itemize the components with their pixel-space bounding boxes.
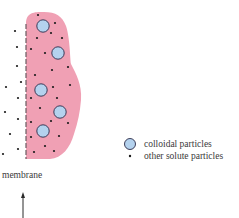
colloid-particle (54, 106, 66, 118)
solute-particle (17, 148, 19, 150)
legend-solute-label: other solute particles (144, 151, 223, 161)
solute-particle (50, 32, 52, 34)
solute-particle (44, 52, 46, 54)
solute-particle (54, 22, 56, 24)
solute-particle (4, 111, 6, 113)
colloid-particle (35, 84, 47, 96)
solute-particle (17, 118, 19, 120)
colloid-circle-icon (125, 139, 136, 150)
legend-colloidal-label: colloidal particles (144, 139, 212, 149)
solute-particle (30, 97, 32, 99)
colloid-compartment (26, 12, 81, 159)
colloid-particle (52, 47, 64, 59)
colloid-particle (37, 125, 49, 137)
solute-particle (17, 97, 19, 99)
solute-particle (67, 66, 69, 68)
solute-particle (50, 120, 52, 122)
solute-particle (2, 153, 4, 155)
solute-particle (69, 84, 71, 86)
solute-particle (34, 74, 36, 76)
solute-particle (37, 14, 39, 16)
solute-particle (30, 121, 32, 123)
solute-particle (9, 133, 11, 135)
osmosis-diagram (0, 0, 239, 218)
solute-particle (30, 48, 32, 50)
solute-particle (52, 86, 54, 88)
solute-particle (58, 135, 60, 137)
solute-dot-icon (129, 155, 131, 157)
solute-particle (20, 81, 22, 83)
solute-particle (16, 46, 18, 48)
solute-particle (61, 37, 63, 39)
solute-particle (67, 122, 69, 124)
solute-particle (33, 151, 35, 153)
solute-particle (36, 37, 38, 39)
solute-particle (39, 107, 41, 109)
solute-particle (56, 97, 58, 99)
solute-particle (30, 136, 32, 138)
solute-particle (51, 69, 53, 71)
solute-particle (53, 150, 55, 152)
solute-particle (44, 145, 46, 147)
solute-particle (16, 65, 18, 67)
membrane-label: membrane (2, 170, 42, 180)
colloid-particle (37, 20, 49, 32)
solute-particle (5, 86, 7, 88)
solute-particle (14, 30, 16, 32)
arrow-up-icon (21, 192, 25, 198)
